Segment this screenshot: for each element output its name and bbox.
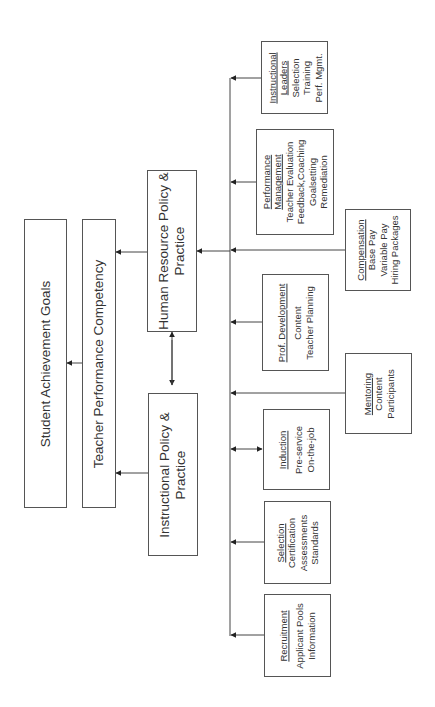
component-item: Hiring Packages <box>389 215 400 284</box>
performance-management-box: Performance Management Teacher Evaluatio… <box>256 129 334 235</box>
component-item: Goalsetting <box>306 140 317 225</box>
component-title: Management <box>272 140 283 225</box>
component-item: Participants <box>384 369 395 419</box>
component-title: Selection <box>275 514 286 571</box>
component-item: Assessments <box>298 514 309 571</box>
component-item: Selection <box>289 52 300 103</box>
recruitment-box: Recruitment Applicant Pools Information <box>264 594 331 677</box>
component-title: Instructional <box>266 52 277 103</box>
mentoring-box: Mentoring Content Participants <box>345 353 412 434</box>
teacher-performance-competency-box: Teacher Performance Competency <box>82 219 116 508</box>
component-item: Pre-service <box>293 425 304 473</box>
compensation-label: Compensation Base Pay Variable Pay Hirin… <box>355 215 401 284</box>
instructional-leaders-label: Instructional Leaders Selection Training… <box>266 52 323 103</box>
selection-label: Selection Certification Assessments Stan… <box>275 514 321 571</box>
component-item: Variable Pay <box>378 215 389 284</box>
hr-policy-label-line2: Practice <box>172 172 188 330</box>
component-title: Prof. Development <box>276 283 287 362</box>
component-item: On-the-job <box>305 425 316 473</box>
component-title: Induction <box>277 425 288 473</box>
component-item: Standards <box>309 514 320 571</box>
component-item: Teacher Planning <box>304 283 315 362</box>
instructional-policy-label: Instructional Policy & Practice <box>157 412 188 537</box>
component-item: Feedback,Coaching <box>295 140 306 225</box>
induction-box: Induction Pre-service On-the-job <box>263 409 330 490</box>
hr-policy-box: Human Resource Policy & Practice <box>147 170 197 332</box>
selection-box: Selection Certification Assessments Stan… <box>264 501 331 584</box>
instructional-policy-label-line1: Instructional Policy & <box>157 412 173 537</box>
component-item: Certification <box>286 514 297 571</box>
student-achievement-goals-box: Student Achievement Goals <box>24 219 67 508</box>
component-item: Teacher Evaluation <box>284 140 295 225</box>
component-title: Performance <box>261 140 272 225</box>
component-item: Training <box>300 52 311 103</box>
recruitment-label: Recruitment Applicant Pools Information <box>278 603 317 668</box>
hr-policy-label: Human Resource Policy & Practice <box>156 172 187 330</box>
component-title: Mentoring <box>361 369 372 419</box>
prof-development-label: Prof. Development Content Teacher Planni… <box>276 283 315 362</box>
instructional-policy-box: Instructional Policy & Practice <box>148 393 198 556</box>
instructional-leaders-box: Instructional Leaders Selection Training… <box>261 41 328 114</box>
component-item: Remediation <box>318 140 329 225</box>
component-item: Content <box>373 369 384 419</box>
component-item: Perf. Mgmt. <box>312 52 323 103</box>
component-item: Content <box>292 283 303 362</box>
component-title: Compensation <box>355 215 366 284</box>
prof-development-box: Prof. Development Content Teacher Planni… <box>262 274 329 371</box>
component-item: Base Pay <box>367 215 378 284</box>
component-title: Leaders <box>277 52 288 103</box>
teacher-performance-competency-label: Teacher Performance Competency <box>91 259 107 468</box>
induction-label: Induction Pre-service On-the-job <box>277 425 316 473</box>
mentoring-label: Mentoring Content Participants <box>361 369 395 419</box>
hr-policy-label-line1: Human Resource Policy & <box>156 172 172 330</box>
instructional-policy-label-line2: Practice <box>173 412 189 537</box>
component-item: Information <box>306 603 317 668</box>
component-item: Applicant Pools <box>294 603 305 668</box>
performance-management-label: Performance Management Teacher Evaluatio… <box>261 140 329 225</box>
compensation-box: Compensation Base Pay Variable Pay Hirin… <box>345 209 411 291</box>
student-achievement-goals-label: Student Achievement Goals <box>38 280 54 447</box>
component-title: Recruitment <box>278 603 289 668</box>
